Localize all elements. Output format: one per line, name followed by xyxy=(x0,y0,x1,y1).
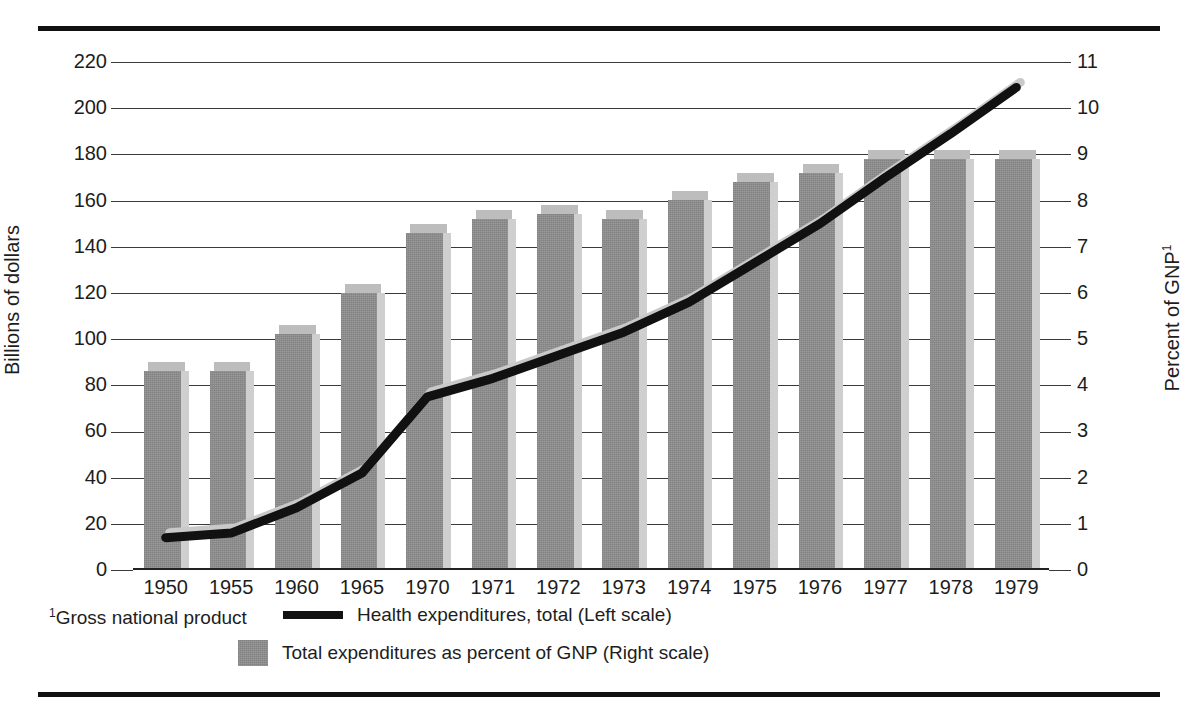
bar[interactable] xyxy=(668,191,705,570)
bar[interactable] xyxy=(733,173,770,570)
left-tick-mark xyxy=(111,339,133,340)
right-tick-label: 4 xyxy=(1077,374,1088,394)
plot-area xyxy=(133,62,1049,570)
bar-face xyxy=(275,334,312,570)
left-tick-label: 120 xyxy=(74,282,107,302)
right-tick-mark xyxy=(1049,432,1071,433)
x-tick-label: 1955 xyxy=(198,576,263,599)
bar[interactable] xyxy=(144,362,181,570)
gridline xyxy=(133,201,1049,202)
bar[interactable] xyxy=(864,150,901,570)
legend-line-label: Health expenditures, total (Left scale) xyxy=(357,604,672,626)
right-tick-mark xyxy=(1049,154,1071,155)
bar-face xyxy=(602,219,639,570)
right-tick-label: 3 xyxy=(1077,420,1088,440)
bar[interactable] xyxy=(995,150,1032,570)
gridline xyxy=(133,154,1049,155)
right-axis-title-footnote-marker: 1 xyxy=(1160,245,1174,252)
footnote-marker: 1 xyxy=(49,606,56,620)
right-tick-label: 10 xyxy=(1077,97,1099,117)
gridline xyxy=(133,247,1049,248)
bar-top xyxy=(214,362,251,371)
gridline xyxy=(133,339,1049,340)
bar[interactable] xyxy=(930,150,967,570)
right-tick-label: 5 xyxy=(1077,328,1088,348)
bar-side xyxy=(245,371,254,570)
right-tick-mark xyxy=(1049,524,1071,525)
left-tick-label: 140 xyxy=(74,236,107,256)
right-axis-title: Percent of GNP1 xyxy=(1160,245,1184,392)
right-tick-label: 6 xyxy=(1077,282,1088,302)
left-axis-title: Billions of dollars xyxy=(1,225,24,375)
bar[interactable] xyxy=(472,210,509,570)
top-rule xyxy=(38,26,1160,31)
bar-face xyxy=(537,214,574,570)
chart-figure: Billions of dollars Percent of GNP1 0204… xyxy=(0,0,1195,725)
bar[interactable] xyxy=(406,224,443,570)
bar[interactable] xyxy=(602,210,639,570)
bar-face xyxy=(995,159,1032,570)
bar-top xyxy=(934,150,971,159)
left-tick-label: 20 xyxy=(85,513,107,533)
left-tick-mark xyxy=(111,570,133,571)
x-tick-label: 1976 xyxy=(787,576,852,599)
footnote-text: Gross national product xyxy=(56,607,247,628)
left-tick-mark xyxy=(111,201,133,202)
bar[interactable] xyxy=(275,325,312,570)
left-tick-label: 160 xyxy=(74,190,107,210)
bottom-rule xyxy=(38,692,1160,697)
left-tick-mark xyxy=(111,432,133,433)
x-tick-label: 1975 xyxy=(722,576,787,599)
right-tick-mark xyxy=(1049,62,1071,63)
x-tick-label: 1974 xyxy=(656,576,721,599)
left-tick-mark xyxy=(111,62,133,63)
left-tick-mark xyxy=(111,247,133,248)
x-tick-label: 1970 xyxy=(395,576,460,599)
left-tick-label: 0 xyxy=(96,559,107,579)
gridline xyxy=(133,524,1049,525)
bar-side xyxy=(376,293,385,570)
bar-side xyxy=(442,233,451,570)
legend-bar-label: Total expenditures as percent of GNP (Ri… xyxy=(282,642,709,664)
right-tick-mark xyxy=(1049,108,1071,109)
bar-top xyxy=(279,325,316,334)
left-tick-mark xyxy=(111,385,133,386)
bar[interactable] xyxy=(341,284,378,570)
right-tick-mark xyxy=(1049,201,1071,202)
x-tick-label: 1973 xyxy=(591,576,656,599)
bar-side xyxy=(1031,159,1040,570)
left-tick-mark xyxy=(111,108,133,109)
legend-item-line[interactable]: Health expenditures, total (Left scale) xyxy=(283,604,672,626)
bar-face xyxy=(144,371,181,570)
legend-bar-swatch-icon xyxy=(238,640,268,666)
bar-face xyxy=(930,159,967,570)
bar-top xyxy=(476,210,513,219)
right-tick-label: 2 xyxy=(1077,467,1088,487)
x-tick-label: 1978 xyxy=(918,576,983,599)
bar-side xyxy=(311,334,320,570)
bar[interactable] xyxy=(210,362,247,570)
right-tick-label: 11 xyxy=(1077,51,1098,71)
x-tick-label: 1971 xyxy=(460,576,525,599)
bar-side xyxy=(573,214,582,570)
bar-side xyxy=(834,173,843,570)
bar[interactable] xyxy=(799,164,836,570)
left-tick-label: 60 xyxy=(85,420,107,440)
right-tick-label: 0 xyxy=(1077,559,1088,579)
right-tick-label: 8 xyxy=(1077,190,1088,210)
gridline xyxy=(133,62,1049,63)
bar-top xyxy=(345,284,382,293)
bar-top xyxy=(803,164,840,173)
bar[interactable] xyxy=(537,205,574,570)
bar-top xyxy=(672,191,709,200)
gridline xyxy=(133,432,1049,433)
bar-side xyxy=(900,159,909,570)
bar-top xyxy=(999,150,1036,159)
legend-item-bar[interactable]: Total expenditures as percent of GNP (Ri… xyxy=(238,640,709,666)
bar-side xyxy=(638,219,647,570)
bar-face xyxy=(733,182,770,570)
gridline xyxy=(133,293,1049,294)
left-tick-mark xyxy=(111,524,133,525)
bar-side xyxy=(965,159,974,570)
bar-face xyxy=(799,173,836,570)
